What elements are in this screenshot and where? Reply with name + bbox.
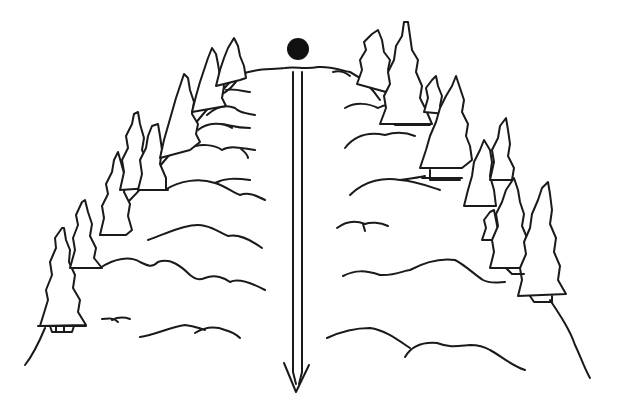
pine-tree-icon [518,182,566,296]
pine-tree-icon [160,74,200,158]
pine-tree-icon [70,200,102,268]
ball-icon [287,38,309,60]
downhill-arrow-icon [284,72,309,392]
pine-tree-icon [357,30,394,92]
pine-tree-icon [216,38,246,86]
pine-tree-icon [490,118,514,180]
illustration: Line drawing of a ball at the summit of … [0,0,620,413]
hill-drawing [0,0,620,413]
trees-left [38,38,246,332]
trees-right [357,22,566,302]
